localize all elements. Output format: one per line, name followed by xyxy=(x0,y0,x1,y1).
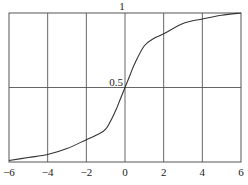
y-tick-label: 0.5 xyxy=(109,76,123,88)
x-tick-label: 6 xyxy=(238,166,244,178)
x-tick-label: −2 xyxy=(80,166,92,178)
x-tick-label: 0 xyxy=(122,166,128,178)
x-tick-label: −4 xyxy=(42,166,54,178)
x-tick-label: 4 xyxy=(200,166,206,178)
x-tick-labels: −6−4−20246 xyxy=(3,166,244,178)
sigmoid-chart: −6−4−20246 10.5 xyxy=(0,0,248,185)
x-tick-label: 2 xyxy=(161,166,167,178)
x-tick-label: −6 xyxy=(3,166,15,178)
y-tick-label: 1 xyxy=(119,0,125,12)
